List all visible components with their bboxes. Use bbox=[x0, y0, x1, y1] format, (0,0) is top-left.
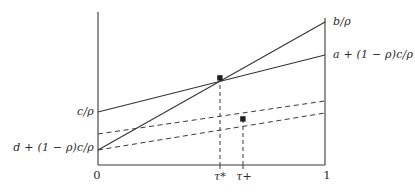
x-tick-label-tau-star: τ* bbox=[214, 171, 226, 182]
line-a-plus-c-over-rho bbox=[98, 55, 325, 112]
dashed-line-lower bbox=[98, 113, 325, 150]
marker-intersection-tau-star bbox=[217, 75, 222, 80]
x-tick-label-tau-plus: τ+ bbox=[236, 171, 252, 182]
x-tick-label-one: 1 bbox=[323, 170, 331, 182]
label-b-over-rho: b/ρ bbox=[333, 16, 351, 27]
marker-point-tau-plus bbox=[240, 116, 245, 121]
label-a-plus-one-minus-rho-c-over-rho: a + (1 − ρ)c/ρ bbox=[333, 49, 413, 60]
label-d-plus-one-minus-rho-c-over-rho: d + (1 − ρ)c/ρ bbox=[13, 142, 94, 153]
dashed-line-upper bbox=[98, 101, 325, 134]
label-c-over-rho: c/ρ bbox=[77, 106, 94, 117]
plot-canvas bbox=[0, 0, 415, 192]
figure-container: b/ρ a + (1 − ρ)c/ρ c/ρ d + (1 − ρ)c/ρ 0 … bbox=[0, 0, 415, 192]
line-b-over-rho bbox=[98, 22, 325, 150]
x-tick-label-zero: 0 bbox=[93, 170, 101, 182]
